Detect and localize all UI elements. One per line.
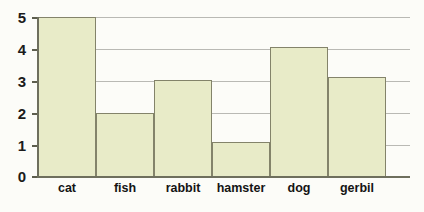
bar-dog [270, 47, 328, 177]
y-tick-mark-4 [32, 49, 37, 51]
y-tick-label-0: 0 [4, 169, 26, 184]
y-tick-label-5: 5 [4, 10, 26, 25]
y-tick-mark-3 [32, 81, 37, 83]
x-tick-label-gerbil: gerbil [328, 182, 386, 195]
y-tick-label-2: 2 [4, 106, 26, 121]
x-tick-label-fish: fish [96, 182, 154, 195]
x-axis-baseline [38, 176, 410, 178]
bar-chart-figure: 5 4 3 2 1 0 cat fish rabbit hamster dog … [0, 0, 424, 212]
x-tick-label-rabbit: rabbit [154, 182, 212, 195]
y-tick-label-3: 3 [4, 74, 26, 89]
y-tick-mark-0 [32, 176, 37, 178]
y-tick-label-1: 1 [4, 138, 26, 153]
plot-area: 5 4 3 2 1 0 cat fish rabbit hamster dog … [0, 0, 424, 212]
y-tick-mark-2 [32, 113, 37, 115]
bar-gerbil [328, 77, 386, 177]
x-tick-label-dog: dog [270, 182, 328, 195]
y-tick-mark-5 [32, 17, 37, 19]
bar-fish [96, 113, 154, 177]
y-axis-line [37, 17, 39, 178]
x-tick-label-hamster: hamster [212, 182, 270, 195]
y-tick-mark-1 [32, 145, 37, 147]
bar-hamster [212, 142, 270, 177]
y-tick-label-4: 4 [4, 42, 26, 57]
bar-cat [38, 17, 96, 177]
bar-rabbit [154, 80, 212, 177]
x-tick-label-cat: cat [38, 182, 96, 195]
